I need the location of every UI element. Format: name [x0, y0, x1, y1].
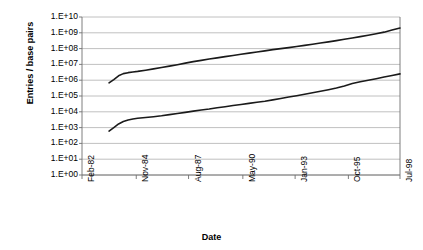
x-tick-label: Jan-93 [299, 156, 309, 182]
x-tick-label: Aug-87 [193, 155, 203, 182]
series-line-0 [109, 28, 400, 83]
y-tick-label: 1.E+06 [32, 75, 78, 83]
x-tick-label: May-90 [247, 154, 257, 182]
x-tick-label: Nov-84 [140, 155, 150, 182]
y-tick-label: 1.E+00 [32, 170, 78, 178]
y-tick-label: 1.E+07 [32, 59, 78, 67]
y-tick-label: 1.E+04 [32, 107, 78, 115]
y-axis-tick-labels: 1.E+101.E+091.E+081.E+071.E+061.E+051.E+… [32, 0, 78, 250]
data-series [109, 28, 400, 131]
x-tick-label: Oct-95 [352, 156, 362, 182]
series-line-1 [109, 74, 400, 131]
y-tick-label: 1.E+05 [32, 91, 78, 99]
y-tick-label: 1.E+09 [32, 28, 78, 36]
x-tick-label: Feb-82 [86, 155, 96, 182]
y-tick-label: 1.E+02 [32, 138, 78, 146]
y-tick-label: 1.E+01 [32, 154, 78, 162]
y-tick-label: 1.E+08 [32, 44, 78, 52]
chart-container: Entries / base pairs 1.E+101.E+091.E+081… [0, 0, 423, 250]
y-tick-label: 1.E+03 [32, 123, 78, 131]
gridlines [82, 17, 400, 175]
y-tick-label: 1.E+10 [32, 12, 78, 20]
x-tick-label: Jul-98 [404, 159, 414, 182]
x-axis-title: Date [0, 232, 423, 242]
